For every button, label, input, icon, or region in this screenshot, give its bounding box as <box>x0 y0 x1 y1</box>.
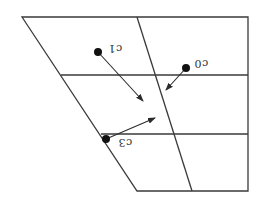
inner-divider-line <box>137 17 192 191</box>
vector-arrow-c1 <box>98 52 143 101</box>
point-dot-c3 <box>102 135 110 143</box>
grid-diagram <box>0 0 264 200</box>
point-dot-c0 <box>182 64 190 72</box>
point-dot-c1 <box>94 48 102 56</box>
point-label-c3: c3 <box>118 137 132 148</box>
point-label-c0: c0 <box>194 58 208 69</box>
vectors <box>94 48 190 143</box>
frame-outline <box>22 17 248 191</box>
vector-arrow-c0 <box>166 68 186 90</box>
horizontal-lines <box>61 75 248 134</box>
point-label-c1: c1 <box>108 43 122 54</box>
